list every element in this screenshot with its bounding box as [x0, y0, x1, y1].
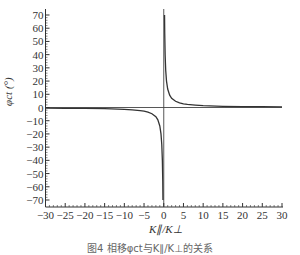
x-tick-label: −30 — [37, 209, 55, 221]
x-tick-label: 25 — [257, 209, 269, 221]
y-tick-label: −10 — [26, 115, 44, 127]
chart: 706050403020100−10−20−30−40−50−60−70−30−… — [0, 0, 300, 240]
y-tick-label: 50 — [33, 35, 45, 47]
y-tick-label: −40 — [26, 154, 44, 166]
x-tick-label: 15 — [217, 209, 229, 221]
x-tick-label: −5 — [138, 209, 150, 221]
y-tick-label: −50 — [26, 168, 44, 180]
x-tick-label: 10 — [198, 209, 210, 221]
y-tick-label: −30 — [26, 141, 44, 153]
x-tick-label: 0 — [161, 209, 167, 221]
y-tick-label: 10 — [33, 88, 45, 100]
y-tick-label: 40 — [33, 49, 45, 61]
x-tick-label: 5 — [181, 209, 187, 221]
y-tick-label: 70 — [33, 9, 45, 21]
y-tick-label: 20 — [33, 75, 45, 87]
y-tick-label: 0 — [38, 102, 44, 114]
y-tick-label: 30 — [33, 62, 45, 74]
x-tick-label: −25 — [57, 209, 75, 221]
y-tick-label: −20 — [26, 128, 44, 140]
data-curve-positive-branch — [165, 15, 282, 107]
y-tick-label: −60 — [26, 181, 44, 193]
y-tick-label: −70 — [26, 194, 44, 206]
ticks: 706050403020100−10−20−30−40−50−60−70−30−… — [26, 9, 288, 221]
x-tick-label: 30 — [277, 209, 289, 221]
x-tick-label: −10 — [116, 209, 134, 221]
x-tick-label: −15 — [96, 209, 114, 221]
data-curve-negative-branch — [46, 108, 163, 200]
figure-caption: 图4 相移φct与K∥/K⊥的关系 — [0, 240, 300, 255]
x-tick-label: 20 — [237, 209, 249, 221]
y-axis-label: φct (°) — [2, 77, 15, 106]
x-axis-label: K∥/K⊥ — [148, 223, 183, 236]
x-tick-label: −20 — [76, 209, 94, 221]
y-tick-label: 60 — [33, 22, 45, 34]
